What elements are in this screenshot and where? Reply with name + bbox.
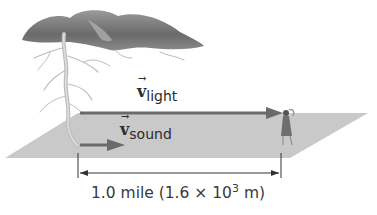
light-subscript: light (146, 88, 177, 104)
distance-exponent: 3 (232, 182, 239, 195)
vector-symbol: →v (120, 120, 129, 139)
sound-velocity-label: →vsound (120, 120, 172, 139)
vector-symbol: →v (137, 82, 146, 101)
distance-prefix: 1.0 mile (1.6 × 10 (91, 184, 232, 202)
distance-caption: 1.0 mile (1.6 × 103 m) (0, 184, 356, 202)
sound-subscript: sound (129, 126, 172, 142)
ground-plane (5, 113, 368, 158)
vector-arrow-icon: → (138, 73, 146, 84)
distance-suffix: m) (239, 184, 265, 202)
light-velocity-label: →vlight (137, 82, 177, 101)
vector-arrow-icon: → (121, 111, 129, 122)
lightning-distance-diagram (0, 0, 377, 215)
storm-cloud (22, 10, 204, 50)
